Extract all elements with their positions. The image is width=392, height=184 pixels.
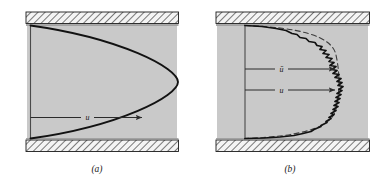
panel-a: u (a) [26, 12, 179, 175]
panel-b-top-wall [216, 12, 370, 25]
panel-a-top-wall [26, 12, 179, 25]
panel-b-mean-velocity-label: ū [280, 65, 284, 74]
panel-b-bottom-wall [216, 139, 370, 152]
bottom-wall-hatch [26, 140, 179, 152]
figure-root: u (a) ū [0, 0, 392, 184]
velocity-profile-figure: u (a) ū [0, 0, 392, 184]
panel-b-caption: (b) [284, 164, 295, 175]
panel-a-velocity-label: u [86, 113, 90, 122]
top-wall-hatch [26, 12, 179, 24]
panel-b-fluid-region [217, 26, 368, 139]
panel-b-velocity-label: u [280, 86, 284, 95]
panel-a-bottom-wall [26, 139, 179, 152]
panel-b: ū u (b) [216, 12, 370, 175]
bottom-wall-hatch [216, 140, 370, 152]
panel-a-fluid-region [27, 26, 177, 139]
top-wall-hatch [216, 12, 370, 24]
panel-a-caption: (a) [91, 164, 102, 175]
